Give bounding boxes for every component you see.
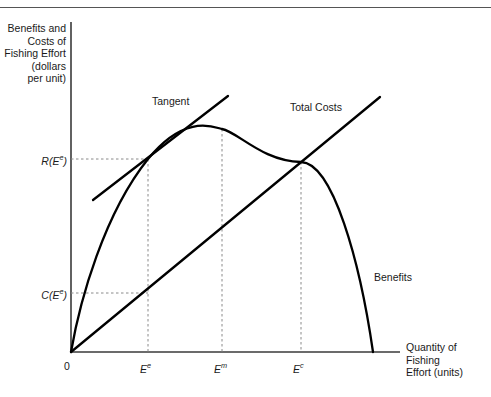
x-axis-title-line-3: Effort (units) — [406, 366, 463, 378]
x-tick-Ee-base: E — [140, 363, 147, 375]
figure-container: Benefits andCosts ofFishing Effort(dolla… — [0, 0, 491, 397]
x-tick-label-Ec: Ec — [293, 360, 304, 375]
x-tick-Em-base: E — [214, 363, 221, 375]
x-tick-Ee-sup: e — [147, 361, 151, 370]
y-tick-C-base: C(E — [41, 289, 59, 301]
y-tick-R-base: R(E — [41, 155, 59, 167]
benefits-label: Benefits — [374, 271, 412, 284]
chart-plot-area — [0, 0, 491, 397]
origin-label: 0 — [64, 360, 70, 373]
x-tick-label-Em: Em — [214, 360, 227, 375]
x-tick-Em-sup: m — [221, 361, 227, 370]
tangent-line — [93, 96, 228, 200]
y-axis-title-line-2: Costs of — [27, 35, 66, 47]
x-tick-label-Ee: Ee — [140, 360, 151, 375]
y-tick-R-close: ) — [64, 155, 68, 167]
x-axis-title-line-2: Fishing — [406, 354, 440, 366]
y-tick-label-cost-efficient: C(Ee) — [25, 286, 67, 301]
x-axis-title-line-1: Quantity of — [406, 341, 457, 353]
x-tick-Ec-sup: c — [300, 361, 304, 370]
y-axis-title-line-1: Benefits and — [8, 22, 66, 34]
y-tick-C-close: ) — [64, 289, 68, 301]
total-costs-label: Total Costs — [290, 101, 342, 114]
x-tick-Ec-base: E — [293, 363, 300, 375]
x-axis-title: Quantity ofFishingEffort (units) — [406, 341, 488, 379]
y-tick-label-benefit-efficient: R(Ee) — [25, 152, 67, 167]
y-axis-title-line-5: per unit) — [27, 72, 66, 84]
y-axis-title: Benefits andCosts ofFishing Effort(dolla… — [2, 22, 66, 85]
total-costs-line — [71, 97, 380, 352]
tangent-label: Tangent — [152, 95, 189, 108]
y-axis-title-line-3: Fishing Effort — [4, 47, 66, 59]
y-axis-title-line-4: (dollars — [32, 60, 66, 72]
